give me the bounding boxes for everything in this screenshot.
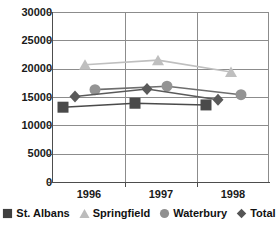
x-axis-label-1997: 1997	[131, 189, 191, 200]
y-axis-label-25000: 25000	[6, 35, 52, 46]
x-tick-2	[197, 182, 198, 187]
y-axis-label-30000: 30000	[6, 7, 52, 18]
x-axis-label-1998: 1998	[203, 189, 263, 200]
x-axis-line	[53, 182, 270, 183]
legend-item-total[interactable]: Total	[236, 208, 275, 219]
legend-item-st-albans[interactable]: St. Albans	[2, 208, 69, 219]
series-waterbury	[90, 81, 247, 101]
series-layer	[53, 12, 269, 182]
y-axis-label-5000: 5000	[6, 148, 52, 159]
square-marker-icon	[2, 208, 13, 219]
legend-item-springfield[interactable]: Springfield	[79, 208, 150, 219]
y-axis-label-15000: 15000	[6, 92, 52, 103]
legend-label-st-albans: St. Albans	[16, 208, 69, 219]
y-axis-label-10000: 10000	[6, 120, 52, 131]
chart-legend: St. Albans Springfield Waterbury Total	[0, 203, 278, 223]
legend-label-waterbury: Waterbury	[173, 208, 227, 219]
legend-label-total: Total	[250, 208, 275, 219]
y-axis-label-20000: 20000	[6, 63, 52, 74]
circle-marker-icon	[159, 208, 170, 219]
x-tick-1	[125, 182, 126, 187]
legend-item-waterbury[interactable]: Waterbury	[159, 208, 227, 219]
x-axis-label-1996: 1996	[59, 189, 119, 200]
legend-label-springfield: Springfield	[93, 208, 150, 219]
triangle-marker-icon	[79, 208, 90, 219]
series-st-albans	[58, 98, 212, 113]
diamond-marker-icon	[236, 208, 247, 219]
chart-container: 30000 25000 20000 15000 10000 5000 0 199…	[0, 0, 278, 225]
y-axis-label-0: 0	[6, 177, 52, 188]
series-springfield	[79, 55, 237, 77]
